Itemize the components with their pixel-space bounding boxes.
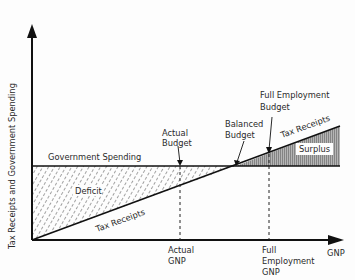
full-employment-budget-arrow: [266, 117, 272, 154]
y-axis-label: Tax Receipts and Government Spending: [7, 83, 17, 250]
full-gnp-label-1: Full: [262, 245, 276, 255]
y-axis-arrowhead: [27, 24, 37, 38]
diagram-canvas: Tax Receipts and Government Spending Gov…: [0, 0, 355, 280]
actual-budget-arrow: [177, 146, 183, 166]
deficit-label: Deficit: [75, 186, 103, 196]
actual-budget-label-2: Budget: [162, 138, 193, 148]
surplus-label: Surplus: [299, 144, 330, 154]
full-employment-budget-label-2: Budget: [260, 102, 291, 112]
x-axis-label: GNP: [327, 248, 345, 258]
government-spending-label: Government Spending: [48, 152, 141, 162]
budget-diagram: Tax Receipts and Government Spending Gov…: [0, 0, 355, 280]
actual-budget-label-1: Actual: [162, 128, 188, 138]
actual-gnp-label-2: GNP: [168, 256, 186, 266]
x-axis-arrowhead: [328, 235, 344, 245]
full-gnp-label-3: GNP: [262, 267, 280, 277]
balanced-budget-label-1: Balanced: [225, 119, 263, 129]
full-gnp-label-2: Employment: [262, 256, 315, 266]
balanced-budget-label-2: Budget: [225, 130, 256, 140]
full-employment-budget-label-1: Full Employment: [260, 90, 330, 100]
actual-gnp-label-1: Actual: [168, 245, 194, 255]
